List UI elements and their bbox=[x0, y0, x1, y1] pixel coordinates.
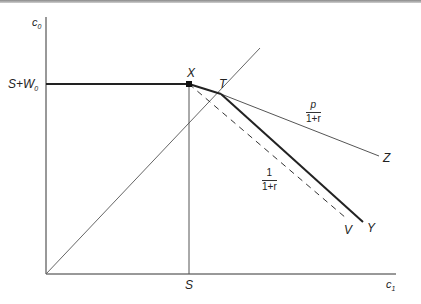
ty-line bbox=[221, 94, 363, 222]
x-axis-label: c1 bbox=[386, 279, 395, 292]
point-v-label: V bbox=[344, 224, 352, 236]
slope-p-over-1-plus-r: p 1+r bbox=[306, 100, 321, 124]
xv-dashed-line bbox=[189, 84, 346, 218]
forty-five-degree-line bbox=[46, 48, 260, 274]
x-to-t-line bbox=[189, 84, 221, 94]
diagram-canvas bbox=[0, 0, 421, 304]
tz-line bbox=[221, 94, 379, 156]
x-tick-label: S bbox=[185, 279, 193, 291]
point-z-label: Z bbox=[383, 152, 390, 164]
x-point-marker bbox=[186, 81, 192, 87]
point-y-label: Y bbox=[367, 222, 375, 234]
point-x-label: X bbox=[187, 67, 195, 79]
y-axis-label: c0 bbox=[32, 17, 41, 30]
y-tick-label: S+W0 bbox=[8, 78, 38, 92]
point-t-label: T bbox=[219, 78, 226, 90]
slope-1-over-1-plus-r: 1 1+r bbox=[262, 168, 277, 192]
